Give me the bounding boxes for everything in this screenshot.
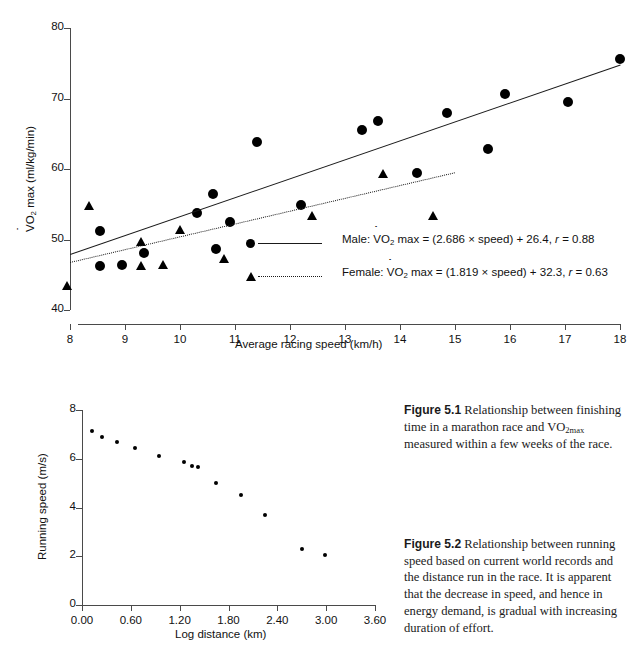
x-axis-tick: [375, 605, 376, 611]
x-axis-tick-label: 0.00: [58, 614, 106, 626]
y-axis-tick-label: 6: [48, 451, 76, 463]
data-point-record: [214, 481, 218, 485]
chart-running-speed-vs-log-distance: 024680.000.601.201.802.403.003.60 Runnin…: [0, 0, 400, 648]
y-axis-tick-label: 2: [48, 548, 76, 560]
data-point-record: [300, 547, 304, 551]
data-point-male: [615, 54, 625, 64]
x-axis-tick-label: 0.60: [107, 614, 155, 626]
x-axis-tick: [510, 324, 511, 330]
data-point-female: [428, 211, 438, 220]
data-point-record: [133, 446, 137, 450]
x-axis-tick: [131, 605, 132, 611]
data-point-record: [263, 513, 267, 517]
data-point-male: [412, 168, 422, 178]
x-axis-tick-label: 17: [541, 333, 589, 345]
caption-figure-5-1: Figure 5.1 Relationship between finishin…: [404, 402, 626, 453]
data-point-record: [190, 464, 194, 468]
data-point-male: [442, 108, 452, 118]
caption-figure-5-2: Figure 5.2 Relationship between running …: [404, 536, 626, 636]
x-axis-tick-label: 1.20: [156, 614, 204, 626]
x-axis-tick: [229, 605, 230, 611]
caption-number-5-2: Figure 5.2: [404, 537, 461, 551]
y-axis-tick: [76, 556, 82, 557]
data-point-record: [239, 493, 243, 497]
data-point-male: [500, 89, 510, 99]
data-point-record: [90, 429, 94, 433]
x-axis-tick-label: 2.40: [253, 614, 301, 626]
x-axis-tick: [565, 324, 566, 330]
x-axis-tick: [620, 324, 621, 330]
data-point-male: [563, 97, 573, 107]
x-axis-tick-label: 1.80: [205, 614, 253, 626]
caption-body-5-2: Relationship between running speed based…: [404, 537, 617, 635]
y-axis-title-chart2: Running speed (m/s): [36, 453, 48, 560]
y-axis-line: [82, 410, 83, 605]
x-axis-tick: [400, 324, 401, 330]
x-axis-tick-label: 3.00: [302, 614, 350, 626]
x-axis-tick: [180, 605, 181, 611]
x-axis-tick-label: 3.60: [351, 614, 399, 626]
x-axis-tick: [455, 324, 456, 330]
x-axis-tick-label: 16: [486, 333, 534, 345]
figure-page: 405060708089101112131415161718 Male: VO2…: [0, 0, 637, 648]
data-point-record: [196, 465, 200, 469]
y-axis-tick: [76, 410, 82, 411]
data-point-male: [483, 144, 493, 154]
data-point-record: [100, 435, 104, 439]
y-axis-tick: [76, 508, 82, 509]
y-axis-tick-label: 8: [48, 402, 76, 414]
data-point-record: [157, 454, 161, 458]
data-point-record: [323, 553, 327, 557]
x-axis-title-chart2: Log distance (km): [175, 628, 266, 640]
x-axis-tick-label: 18: [596, 333, 637, 345]
y-axis-tick-label: 0: [48, 597, 76, 609]
y-axis-tick: [76, 459, 82, 460]
x-axis-tick-label: 15: [431, 333, 479, 345]
x-axis-tick: [277, 605, 278, 611]
data-point-record: [115, 440, 119, 444]
x-axis-tick: [82, 605, 83, 611]
caption-subscript-5-1: 2max: [565, 425, 584, 435]
y-axis-tick-label: 4: [48, 500, 76, 512]
data-point-record: [182, 460, 186, 464]
x-axis-tick: [326, 605, 327, 611]
caption-number-5-1: Figure 5.1: [404, 403, 461, 417]
